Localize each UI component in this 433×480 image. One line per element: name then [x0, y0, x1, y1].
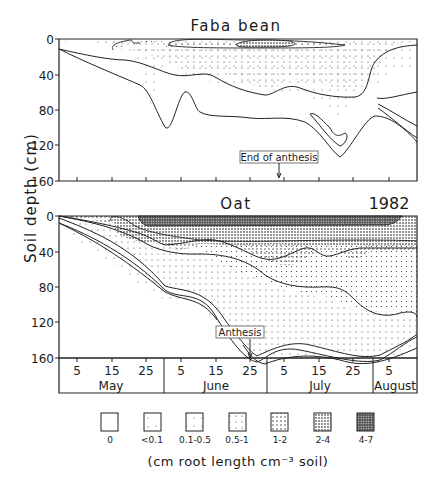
year-label: 1982 [369, 194, 410, 213]
x-tick-august-5: 5 [385, 364, 393, 378]
x-tick-june-5: 5 [177, 364, 185, 378]
x-tick-may-25: 25 [138, 364, 153, 378]
month-may: May [99, 379, 124, 393]
month-august: August [374, 379, 416, 393]
bottom-y-tick-120: 120 [31, 316, 54, 330]
legend-label-4-7: 4-7 [359, 435, 374, 445]
x-tick-july-5: 5 [280, 364, 288, 378]
top-chart: 0 40 80 120 160 End of anthesis [31, 33, 417, 189]
top-y-tick-160: 160 [31, 175, 54, 189]
top-chart-title: Faba bean [191, 17, 282, 35]
bottom-chart-title: Oat [220, 195, 251, 213]
legend-label-lt0.1: <0.1 [141, 435, 163, 445]
legend-swatch-4-7 [357, 413, 374, 431]
bottom-y-tick-40: 40 [39, 246, 54, 260]
x-tick-june-25: 25 [242, 364, 257, 378]
end-of-anthesis-label: End of anthesis [240, 152, 317, 163]
legend-swatch-lt0.1 [144, 413, 161, 431]
bottom-y-tick-80: 80 [39, 281, 54, 295]
x-tick-may-5: 5 [73, 364, 81, 378]
top-y-tick-120: 120 [31, 139, 54, 153]
top-y-tick-80: 80 [39, 104, 54, 118]
bottom-y-tick-0: 0 [46, 210, 54, 224]
root-density-figure: Faba bean Oat 1982 Soil depth (cm) [0, 0, 433, 480]
legend-swatch-2-4 [314, 413, 331, 431]
legend-swatch-0 [101, 413, 118, 431]
x-tick-may-15: 15 [104, 364, 119, 378]
legend-units: (cm root length cm⁻³ soil) [148, 454, 329, 469]
bottom-chart: 0 40 80 120 160 Anthesis [31, 210, 417, 366]
legend-label-2-4: 2-4 [316, 435, 331, 445]
legend-swatch-0.1-0.5 [186, 413, 203, 431]
x-tick-july-25: 25 [345, 364, 360, 378]
month-june: June [202, 379, 229, 393]
legend-swatch-1-2 [271, 413, 288, 431]
bottom-y-tick-160: 160 [31, 352, 54, 366]
anthesis-label: Anthesis [219, 327, 262, 338]
legend-label-1-2: 1-2 [273, 435, 288, 445]
x-tick-july-15: 15 [311, 364, 326, 378]
top-y-tick-0: 0 [46, 33, 54, 47]
x-tick-june-15: 15 [208, 364, 223, 378]
legend-label-0.1-0.5: 0.1-0.5 [179, 435, 211, 445]
legend-label-0: 0 [107, 435, 113, 445]
month-july: July [308, 379, 331, 393]
top-y-tick-40: 40 [39, 69, 54, 83]
legend-label-0.5-1: 0.5-1 [225, 435, 248, 445]
legend-swatch-0.5-1 [229, 413, 246, 431]
legend: 0 <0.1 0.1-0.5 0.5-1 1-2 2-4 4-7 (cm roo… [101, 413, 374, 469]
